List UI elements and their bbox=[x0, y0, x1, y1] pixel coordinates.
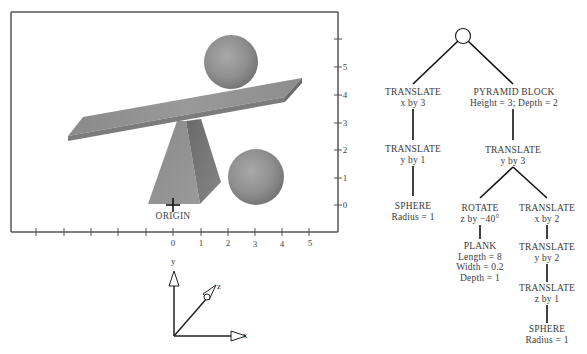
origin-label: ORIGIN bbox=[155, 211, 190, 221]
axis-z-label: z bbox=[217, 281, 221, 291]
y-tick-4: 4 bbox=[343, 90, 348, 100]
node-param: z by −40° bbox=[461, 214, 500, 225]
node-title: PLANK bbox=[456, 241, 504, 252]
sphere-ground bbox=[228, 149, 284, 205]
node-title: TRANSLATE bbox=[385, 87, 441, 98]
node-param: y by 3 bbox=[485, 156, 541, 167]
node-param: Radius = 1 bbox=[391, 212, 434, 223]
tree-node-translate-x2: TRANSLATE x by 2 bbox=[519, 203, 575, 224]
node-param: y by 1 bbox=[385, 155, 441, 166]
y-tick-0: 0 bbox=[343, 200, 348, 210]
tree-node-translate-x3: TRANSLATE x by 3 bbox=[385, 87, 441, 108]
scene-canvas bbox=[0, 0, 587, 354]
tree-node-translate-y1: TRANSLATE y by 1 bbox=[385, 144, 441, 165]
node-title: PYRAMID BLOCK bbox=[470, 87, 558, 98]
x-tick-5: 5 bbox=[308, 238, 313, 248]
axis-y-label: y bbox=[171, 256, 176, 266]
node-title: TRANSLATE bbox=[385, 144, 441, 155]
node-param: Depth = 1 bbox=[456, 273, 504, 284]
x-tick-4: 4 bbox=[280, 239, 285, 249]
y-tick-2: 2 bbox=[343, 145, 348, 155]
tree-node-sphere-2: SPHERE Radius = 1 bbox=[525, 324, 568, 345]
node-title: SPHERE bbox=[525, 324, 568, 335]
sphere-plank bbox=[204, 35, 258, 89]
tree-node-pyramid-block: PYRAMID BLOCK Height = 3; Depth = 2 bbox=[470, 87, 558, 108]
x-tick-3: 3 bbox=[253, 239, 258, 249]
node-title: TRANSLATE bbox=[519, 203, 575, 214]
tree-node-plank: PLANK Length = 8 Width = 0.2 Depth = 1 bbox=[456, 241, 504, 283]
x-tick-0: 0 bbox=[171, 238, 176, 248]
node-title: ROTATE bbox=[461, 203, 500, 214]
x-tick-2: 2 bbox=[226, 238, 231, 248]
tree-node-translate-y2: TRANSLATE y by 2 bbox=[519, 242, 575, 263]
pyramid-block bbox=[148, 119, 221, 204]
node-title: TRANSLATE bbox=[485, 145, 541, 156]
y-tick-5: 5 bbox=[343, 62, 348, 72]
node-title: SPHERE bbox=[391, 201, 434, 212]
y-tick-3: 3 bbox=[343, 118, 348, 128]
tree-node-translate-y3: TRANSLATE y by 3 bbox=[485, 145, 541, 166]
tree-root-node-icon bbox=[456, 29, 471, 44]
node-param: z by 1 bbox=[519, 294, 575, 305]
tree-node-translate-z1: TRANSLATE z by 1 bbox=[519, 283, 575, 304]
node-param: Height = 3; Depth = 2 bbox=[470, 98, 558, 109]
axis-x-label: x bbox=[243, 330, 248, 340]
node-param: x by 2 bbox=[519, 214, 575, 225]
y-tick-1: 1 bbox=[343, 173, 348, 183]
axes-orientation-icon bbox=[169, 271, 246, 341]
node-param: Radius = 1 bbox=[525, 335, 568, 346]
x-tick-1: 1 bbox=[199, 238, 204, 248]
node-param: x by 3 bbox=[385, 98, 441, 109]
node-title: TRANSLATE bbox=[519, 283, 575, 294]
node-param: Width = 0.2 bbox=[456, 262, 504, 273]
node-title: TRANSLATE bbox=[519, 242, 575, 253]
tree-node-sphere-1: SPHERE Radius = 1 bbox=[391, 201, 434, 222]
node-param: Length = 8 bbox=[456, 252, 504, 263]
tree-node-rotate: ROTATE z by −40° bbox=[461, 203, 500, 224]
node-param: y by 2 bbox=[519, 253, 575, 264]
